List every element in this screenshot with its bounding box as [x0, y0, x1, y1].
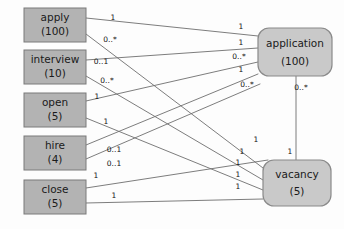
multiplicity-label: 1 — [239, 22, 244, 31]
multiplicity-label: 0..1 — [107, 159, 122, 168]
node-interview-count: (10) — [44, 67, 66, 79]
node-hire-label: hire — [45, 139, 65, 151]
left-class-nodes: apply(100)interview(10)open(5)hire(4)clo… — [24, 8, 86, 214]
multiplicity-label: 1 — [254, 135, 259, 144]
multiplicity-label: 0..1 — [94, 57, 109, 66]
multiplicity-label: 1 — [94, 171, 99, 180]
node-hire-count: (4) — [48, 153, 63, 165]
multiplicity-label: 0..1 — [107, 145, 122, 154]
node-application-count: (100) — [281, 55, 309, 67]
multiplicity-label: 1 — [111, 13, 116, 22]
multiplicity-label: 0..* — [232, 52, 246, 61]
node-application-label: application — [266, 37, 324, 49]
multiplicity-label: 1 — [236, 170, 241, 179]
multiplicity-label: 0..* — [103, 35, 117, 44]
multiplicity-label: 1 — [236, 158, 241, 167]
node-vacancy-count: (5) — [290, 185, 305, 197]
node-close[interactable]: close(5) — [24, 180, 86, 214]
node-close-label: close — [41, 183, 68, 195]
node-close-count: (5) — [48, 197, 63, 209]
diagram-canvas: apply(100)interview(10)open(5)hire(4)clo… — [0, 0, 344, 229]
node-apply-count: (100) — [41, 25, 69, 37]
multiplicity-label: 1 — [288, 147, 293, 156]
node-application[interactable]: application(100) — [258, 28, 332, 76]
node-open-count: (5) — [48, 110, 63, 122]
multiplicity-label: 1 — [239, 65, 244, 74]
multiplicity-label: 1 — [240, 147, 245, 156]
multiplicity-label: 1 — [239, 38, 244, 47]
node-interview[interactable]: interview(10) — [24, 50, 86, 84]
multiplicity-label: 0..* — [240, 80, 254, 89]
node-vacancy[interactable]: vacancy(5) — [263, 160, 331, 206]
node-open-label: open — [42, 96, 68, 108]
multiplicity-label: 0..* — [294, 83, 308, 92]
multiplicity-label: 1 — [104, 117, 109, 126]
multiplicity-label: 1 — [95, 92, 100, 101]
node-vacancy-label: vacancy — [275, 168, 319, 180]
multiplicity-label: 1 — [236, 182, 241, 191]
node-application-box — [258, 28, 332, 76]
node-vacancy-box — [263, 160, 331, 206]
multiplicity-label: 1 — [112, 191, 117, 200]
node-interview-label: interview — [31, 53, 80, 65]
node-apply[interactable]: apply(100) — [24, 8, 86, 42]
node-apply-label: apply — [41, 11, 70, 23]
multiplicity-label: 0..* — [100, 76, 114, 85]
node-open[interactable]: open(5) — [24, 93, 86, 127]
diagram-svg: apply(100)interview(10)open(5)hire(4)clo… — [0, 0, 344, 229]
node-hire[interactable]: hire(4) — [24, 136, 86, 170]
right-class-nodes: application(100)vacancy(5) — [258, 28, 332, 206]
